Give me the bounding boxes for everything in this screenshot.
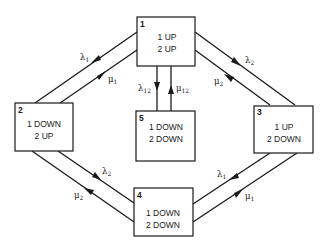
state-2: 2 1 DOWN 2 UP — [15, 103, 73, 151]
label-mu2-3-1: μ2 — [214, 76, 224, 87]
label-lambda1-3-4: λ1 — [217, 169, 226, 180]
edge-1-to-3 — [195, 32, 295, 105]
arrowhead-lambda2-2-4 — [92, 172, 101, 180]
label-mu1-4-3: μ1 — [245, 191, 254, 202]
state-1-line1: 1 UP — [158, 32, 177, 42]
edge-4-to-3 — [193, 153, 297, 222]
state-3-line2: 2 DOWN — [267, 134, 301, 144]
arrowhead-lambda2-1-3 — [231, 57, 241, 66]
label-mu2-4-2: μ2 — [74, 190, 84, 201]
state-4-line2: 2 DOWN — [146, 220, 180, 230]
arrowhead-lambda12-1-5 — [154, 82, 160, 91]
label-mu1-2-1: μ1 — [108, 74, 117, 85]
state-4-line1: 1 DOWN — [146, 208, 180, 218]
arrowhead-mu1-4-3 — [234, 189, 243, 198]
state-1-number: 1 — [140, 19, 145, 29]
state-3: 3 1 UP 2 DOWN — [254, 106, 313, 153]
state-4: 4 1 DOWN 2 DOWN — [134, 188, 193, 236]
arrowhead-mu12-5-1 — [168, 85, 174, 94]
state-4-number: 4 — [137, 190, 142, 200]
state-5: 5 1 DOWN 2 DOWN — [136, 111, 195, 161]
arrowhead-mu2-4-2 — [84, 188, 94, 195]
state-2-number: 2 — [18, 105, 23, 115]
state-5-line2: 2 DOWN — [149, 134, 183, 144]
state-3-number: 3 — [257, 107, 262, 117]
state-2-line1: 1 DOWN — [27, 119, 61, 129]
label-lambda2-2-4: λ2 — [102, 166, 111, 177]
label-lambda1-1-2: λ1 — [80, 52, 89, 63]
state-5-line1: 1 DOWN — [149, 122, 183, 132]
state-5-number: 5 — [139, 113, 144, 123]
edge-4-to-2 — [32, 151, 134, 222]
edge-1-to-2 — [35, 32, 137, 103]
label-mu12-5-1: μ12 — [176, 83, 189, 94]
state-3-line1: 1 UP — [275, 122, 294, 132]
label-lambda12-1-5: λ12 — [138, 83, 151, 94]
label-lambda2-1-3: λ2 — [245, 55, 254, 66]
arrowhead-lambda1-1-2 — [91, 55, 101, 63]
state-2-line2: 2 UP — [35, 131, 54, 141]
state-1-line2: 2 UP — [158, 44, 177, 54]
arrowhead-mu1-2-1 — [97, 71, 106, 80]
state-diagram: λ1 μ1 λ2 μ2 λ12 μ12 λ2 μ2 λ1 μ1 1 1 UP 2… — [0, 0, 329, 249]
state-1: 1 1 UP 2 UP — [137, 17, 195, 66]
